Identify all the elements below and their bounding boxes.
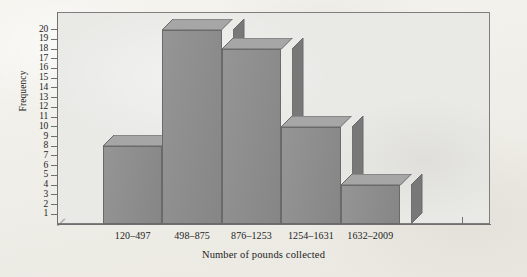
y-axis-tick-label: 16 bbox=[32, 63, 48, 73]
y-axis-tick bbox=[51, 29, 58, 30]
y-axis-tick-label: 12 bbox=[32, 102, 48, 112]
y-axis-tick-label: 17 bbox=[32, 54, 48, 64]
x-axis-minor-tick bbox=[462, 217, 463, 225]
y-axis-tick-label: 1 bbox=[32, 209, 48, 219]
x-axis-line bbox=[57, 224, 491, 225]
y-axis-tick-label: 20 bbox=[32, 25, 48, 35]
y-axis-tick-label: 13 bbox=[32, 93, 48, 103]
x-axis-tick-label: 1632–2009 bbox=[330, 230, 410, 241]
histogram-figure: Frequency 123456789101112131415161718192… bbox=[0, 0, 527, 277]
y-axis-title: Frequency bbox=[18, 54, 28, 128]
y-axis-tick-label: 5 bbox=[32, 170, 48, 180]
y-axis-tick-label: 19 bbox=[32, 34, 48, 44]
y-axis-tick bbox=[51, 165, 58, 166]
y-axis-tick bbox=[51, 97, 58, 98]
y-axis-tick bbox=[51, 107, 58, 108]
y-axis-tick bbox=[51, 185, 58, 186]
y-axis-tick-label: 7 bbox=[32, 151, 48, 161]
y-axis-tick-label: 10 bbox=[32, 122, 48, 132]
y-axis-tick bbox=[51, 146, 58, 147]
y-axis-tick bbox=[51, 68, 58, 69]
y-axis-tick-label: 3 bbox=[32, 190, 48, 200]
y-axis-tick-label: 15 bbox=[32, 73, 48, 83]
y-axis-tick bbox=[51, 155, 58, 156]
y-axis-tick-label: 11 bbox=[32, 112, 48, 122]
y-axis-line bbox=[57, 12, 58, 225]
y-axis-tick-label: 8 bbox=[32, 141, 48, 151]
y-axis-tick bbox=[51, 78, 58, 79]
plot-area bbox=[57, 12, 490, 224]
x-axis-title: Number of pounds collected bbox=[0, 249, 527, 260]
y-axis-tick-label: 14 bbox=[32, 83, 48, 93]
y-axis-tick-label: 6 bbox=[32, 161, 48, 171]
y-axis-tick bbox=[51, 58, 58, 59]
y-axis-tick-label: 4 bbox=[32, 180, 48, 190]
y-axis-tick bbox=[51, 175, 58, 176]
y-axis-tick-label: 2 bbox=[32, 200, 48, 210]
y-axis-tick bbox=[51, 136, 58, 137]
y-axis-tick-label: 18 bbox=[32, 44, 48, 54]
y-axis-tick bbox=[51, 194, 58, 195]
y-axis-tick bbox=[51, 87, 58, 88]
y-axis-tick bbox=[51, 126, 58, 127]
y-axis-tick bbox=[51, 49, 58, 50]
y-axis-tick bbox=[51, 204, 58, 205]
y-axis-tick bbox=[51, 39, 58, 40]
y-axis-tick-label: 9 bbox=[32, 132, 48, 142]
y-axis-tick bbox=[51, 214, 58, 215]
y-axis-tick bbox=[51, 117, 58, 118]
